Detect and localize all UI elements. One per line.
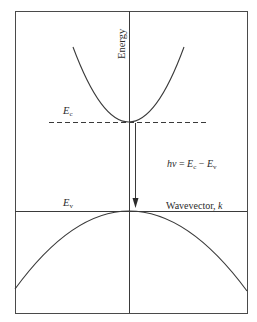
ec-subscript: c (69, 110, 72, 118)
wavevector-var: k (218, 200, 222, 211)
eq-term2-subscript: v (213, 163, 217, 171)
valence-band-curve (15, 211, 247, 291)
eq-equals: = (176, 158, 187, 169)
arrow-head-icon (133, 198, 139, 208)
band-diagram: Energy Ec Ev hν = Ec − Ev Wavevector, k (0, 0, 257, 322)
band-diagram-svg (0, 0, 257, 322)
eq-minus: − (196, 158, 207, 169)
transition-equation: hν = Ec − Ev (167, 159, 217, 171)
ev-label: Ev (63, 198, 73, 210)
ev-subscript: v (69, 202, 73, 210)
energy-axis-label: Energy (117, 29, 128, 59)
wavevector-axis-label: Wavevector, k (166, 201, 223, 211)
conduction-band-curve (73, 47, 184, 122)
ec-label: Ec (63, 106, 73, 118)
wavevector-text: Wavevector, (166, 200, 218, 211)
